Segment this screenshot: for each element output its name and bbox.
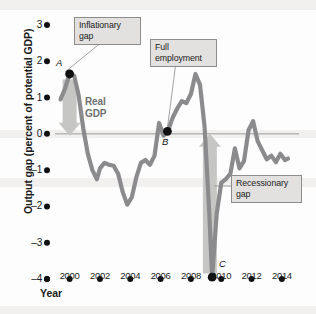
y-tick-label: 3 [24, 19, 42, 30]
y-tick-label: 2 [24, 55, 42, 66]
y-tick-label: –3 [24, 237, 42, 248]
callout-recessionary-gap: Recessionary gap [231, 175, 302, 203]
callout-line1: Inflationary [79, 20, 137, 31]
callout-line2: gap [236, 189, 298, 200]
callout-inflationary-gap: Inflationary gap [74, 17, 141, 45]
callout-line2: employment [155, 53, 213, 64]
x-axis-title: Year [40, 287, 62, 299]
y-tick-marker [44, 203, 50, 209]
y-tick-label: 1 [24, 92, 42, 103]
callout-line1: Recessionary [236, 178, 298, 189]
series-label-line1: Real [85, 96, 106, 108]
y-tick-marker [44, 240, 50, 246]
x-tick-label: 2000 [53, 270, 87, 281]
x-tick-label: 2014 [265, 270, 299, 281]
y-tick-marker [44, 95, 50, 101]
x-tick-label: 2012 [235, 270, 269, 281]
series-label-line2: GDP [85, 108, 106, 120]
y-tick-label: –2 [24, 200, 42, 211]
y-tick-marker [44, 22, 50, 28]
series-label-real-gdp: Real GDP [85, 96, 106, 119]
chart-figure: Output gap (percent of potential GDP) Ye… [0, 0, 316, 314]
y-tick-marker [44, 58, 50, 64]
y-tick-marker [44, 131, 50, 137]
callout-leader-line [65, 41, 103, 72]
y-tick-label: –4 [24, 273, 42, 284]
point-label-c: C [219, 258, 226, 269]
point-label-a: A [56, 57, 62, 68]
y-tick-marker [44, 167, 50, 173]
x-tick-label: 2004 [113, 270, 147, 281]
y-tick-label: 0 [24, 128, 42, 139]
x-tick-label: 2002 [83, 270, 117, 281]
x-tick-label: 2006 [144, 270, 178, 281]
x-tick-label: 2010 [204, 270, 238, 281]
data-point-b[interactable] [163, 127, 172, 136]
callout-full-employment: Full employment [150, 39, 217, 67]
data-point-a[interactable] [65, 70, 74, 79]
callout-line1: Full [155, 42, 213, 53]
callout-line2: gap [79, 31, 137, 42]
axis-origin-marker [44, 276, 50, 282]
point-label-b: B [162, 136, 168, 147]
x-tick-label: 2008 [174, 270, 208, 281]
y-tick-label: –1 [24, 164, 42, 175]
